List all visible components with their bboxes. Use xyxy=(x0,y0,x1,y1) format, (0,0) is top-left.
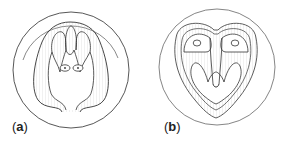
panel-a-diagram xyxy=(13,12,129,128)
figure-canvas xyxy=(0,0,282,143)
panel-b-diagram xyxy=(159,9,275,125)
panel-a-label: (a) xyxy=(12,119,28,134)
panel-b-label: (b) xyxy=(164,119,181,134)
optic-vesicle-left-b xyxy=(193,40,201,46)
optic-vesicle-right-b xyxy=(231,40,239,46)
